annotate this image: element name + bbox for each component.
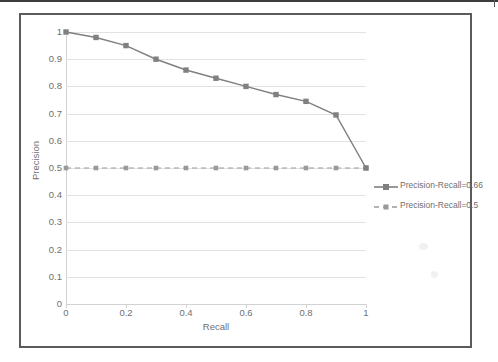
scan-artifact xyxy=(419,243,428,250)
y-axis-tick-label: 0.2 xyxy=(49,245,62,255)
data-point-marker xyxy=(94,166,99,171)
tick-x xyxy=(186,304,187,308)
data-point-marker xyxy=(93,35,98,40)
tick-x xyxy=(66,304,67,308)
data-point-marker xyxy=(334,166,339,171)
data-point-marker xyxy=(123,43,128,48)
y-axis-tick-label: 0 xyxy=(57,299,62,309)
data-point-marker xyxy=(183,67,188,72)
x-axis-tick-label: 0.4 xyxy=(179,307,192,318)
data-point-marker xyxy=(213,76,218,81)
y-axis-tick-label: 0.4 xyxy=(49,190,62,200)
data-point-marker xyxy=(304,166,309,171)
series-line xyxy=(66,32,366,168)
data-point-marker xyxy=(214,166,219,171)
data-point-marker xyxy=(124,166,129,171)
y-axis-tick-label: 1 xyxy=(57,27,62,37)
data-point-marker xyxy=(274,166,279,171)
x-axis-tick-label: 1 xyxy=(363,307,368,318)
data-point-marker xyxy=(273,92,278,97)
x-axis-title: Recall xyxy=(66,321,366,332)
series-precision-recall-066 xyxy=(63,29,368,170)
series-precision-recall-050 xyxy=(64,166,369,171)
x-axis-tick-label: 0.8 xyxy=(299,307,312,318)
y-axis-title: Precision xyxy=(30,131,41,191)
page-top-rule xyxy=(0,0,498,2)
x-axis-tick-labels: 00.20.40.60.81 xyxy=(66,307,366,321)
x-axis-tick-label: 0.2 xyxy=(119,307,132,318)
data-point-marker xyxy=(64,166,69,171)
data-point-marker xyxy=(303,99,308,104)
y-axis-tick-label: 0.8 xyxy=(49,81,62,91)
gridline-y xyxy=(66,304,366,305)
data-point-marker xyxy=(153,57,158,62)
chart-legend: Precision-Recall=0.66 Precision-Recall=0… xyxy=(373,175,498,215)
tick-x xyxy=(246,304,247,308)
chart-plot-container: 00.10.20.30.40.50.60.70.80.91 00.20.40.6… xyxy=(21,15,470,346)
y-axis-tick-label: 0.5 xyxy=(49,163,62,173)
legend-label-0: Precision-Recall=0.66 xyxy=(399,180,483,190)
y-axis-tick-label: 0.9 xyxy=(49,54,62,64)
legend-swatch-dashed-icon xyxy=(373,199,399,211)
tick-x xyxy=(306,304,307,308)
y-axis-tick-label: 0.6 xyxy=(49,136,62,146)
data-point-marker xyxy=(63,29,68,34)
tick-x xyxy=(126,304,127,308)
page-canvas: 00.10.20.30.40.50.60.70.80.91 00.20.40.6… xyxy=(0,0,498,362)
data-point-marker xyxy=(154,166,159,171)
data-point-marker xyxy=(333,112,338,117)
data-series-layer xyxy=(66,32,366,304)
legend-entry-1[interactable]: Precision-Recall=0.5 xyxy=(373,195,498,215)
y-axis-tick-label: 0.7 xyxy=(49,109,62,119)
y-axis-tick-labels: 00.10.20.30.40.50.60.70.80.91 xyxy=(21,32,62,304)
page-top-rule-tick xyxy=(494,0,495,7)
chart-frame: 00.10.20.30.40.50.60.70.80.91 00.20.40.6… xyxy=(19,13,472,348)
data-point-marker xyxy=(184,166,189,171)
legend-swatch-solid-icon xyxy=(373,179,399,191)
legend-entry-0[interactable]: Precision-Recall=0.66 xyxy=(373,175,498,195)
data-point-marker xyxy=(363,165,368,170)
scan-artifact xyxy=(431,271,438,278)
tick-x xyxy=(366,304,367,308)
y-axis-tick-label: 0.3 xyxy=(49,217,62,227)
data-point-marker xyxy=(243,84,248,89)
x-axis-tick-label: 0 xyxy=(63,307,68,318)
y-axis-tick-label: 0.1 xyxy=(49,272,62,282)
legend-label-1: Precision-Recall=0.5 xyxy=(399,200,478,210)
x-axis-tick-label: 0.6 xyxy=(239,307,252,318)
data-point-marker xyxy=(244,166,249,171)
